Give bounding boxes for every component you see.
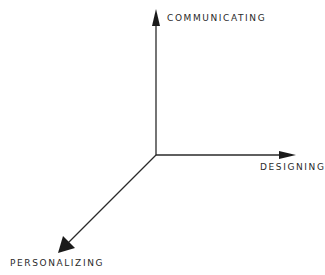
axis-designing-arrowhead [279, 151, 296, 159]
axis-communicating-label: COMMUNICATING [167, 13, 266, 23]
axes-diagram: COMMUNICATING DESIGNING PERSONALIZING [0, 0, 325, 275]
axis-designing-label: DESIGNING [260, 162, 325, 172]
axis-communicating-arrowhead [152, 9, 160, 26]
axis-personalizing-line [68, 155, 156, 243]
axis-personalizing-label: PERSONALIZING [10, 258, 104, 268]
